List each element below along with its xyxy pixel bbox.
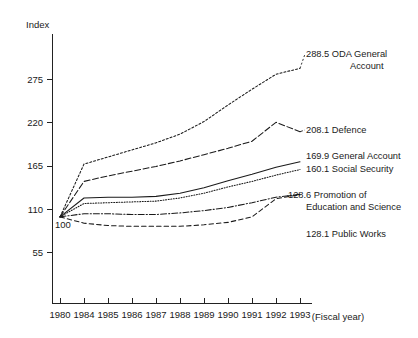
series-label-oda-general-account-line2: Account xyxy=(350,61,384,71)
y-tick-label: 220 xyxy=(27,117,43,128)
y-tick-label: 275 xyxy=(27,74,43,85)
series-end-labels: 288.5 ODA General Account 208.1 Defence … xyxy=(288,49,401,239)
y-tick-label: 165 xyxy=(27,160,43,171)
series-path-oda-general-account xyxy=(60,68,300,217)
index-line-chart: Index 55110165220275 100 198019841985198… xyxy=(0,0,418,338)
series-label-public-works: 128.1 Public Works xyxy=(306,229,386,239)
baseline-100-label: 100 xyxy=(55,219,71,230)
x-axis-title: (Fiscal year) xyxy=(312,311,364,322)
chart-canvas: Index 55110165220275 100 198019841985198… xyxy=(0,0,418,338)
x-tick-label: 1980 xyxy=(49,309,70,320)
x-tick-label: 1988 xyxy=(169,309,190,320)
y-tick-group: 55110165220275 xyxy=(27,74,52,258)
x-tick-label: 1985 xyxy=(97,309,118,320)
x-tick-label: 1986 xyxy=(121,309,142,320)
x-tick-label: 1991 xyxy=(241,309,262,320)
series-label-promotion-education-science-line2: Education and Science xyxy=(306,202,401,212)
x-tick-label: 1993 xyxy=(289,309,310,320)
series-label-oda-general-account: 288.5 ODA General xyxy=(306,49,387,59)
x-tick-label: 1992 xyxy=(265,309,286,320)
y-tick-label: 110 xyxy=(28,204,43,215)
series-label-promotion-education-science: 128.6 Promotion of xyxy=(288,190,367,200)
series-label-social-security: 160.1 Social Security xyxy=(306,164,394,174)
x-tick-group: 1980198419851986198719881989199019911992… xyxy=(49,298,310,321)
series-label-defence: 208.1 Defence xyxy=(306,125,366,135)
x-tick-label: 1984 xyxy=(73,309,94,320)
leader-line xyxy=(300,54,305,68)
x-tick-label: 1990 xyxy=(217,309,238,320)
leader-lines-group xyxy=(287,54,305,196)
series-paths-group xyxy=(60,68,300,226)
series-label-general-account: 169.9 General Account xyxy=(306,151,401,161)
leader-line xyxy=(300,130,305,132)
y-axis-title: Index xyxy=(26,19,49,30)
axes-group xyxy=(53,34,313,304)
x-tick-label: 1987 xyxy=(145,309,166,320)
x-tick-label: 1989 xyxy=(193,309,214,320)
y-tick-label: 55 xyxy=(32,247,43,258)
series-path-general-account xyxy=(60,162,300,217)
